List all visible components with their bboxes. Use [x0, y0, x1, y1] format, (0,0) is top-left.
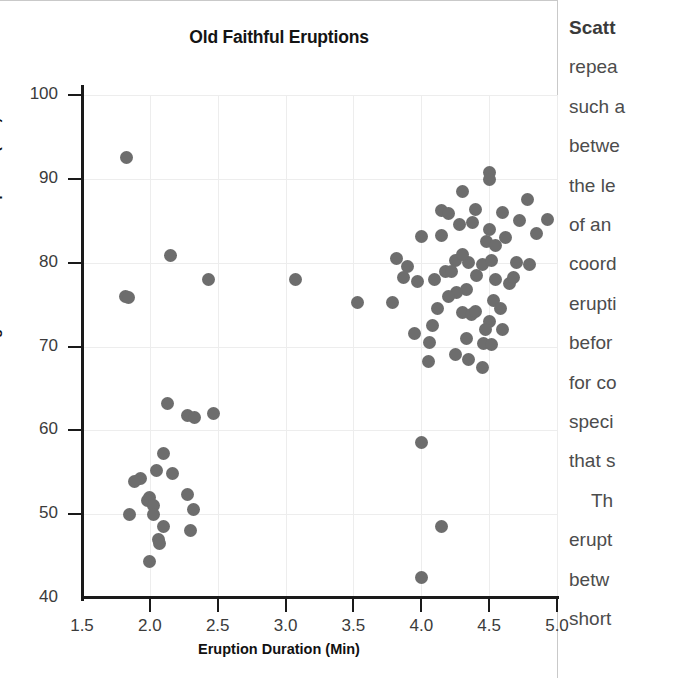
body-text-line: Scatt	[569, 8, 698, 47]
scatter-point	[123, 508, 136, 521]
body-text-line: repea	[569, 47, 698, 86]
scatter-point	[510, 256, 523, 269]
scatter-point	[442, 207, 455, 220]
body-text-line: betw	[569, 560, 698, 599]
page-title: Old Faithful Eruptions	[0, 27, 558, 48]
body-text-line: short	[569, 599, 698, 638]
scatter-point	[496, 323, 509, 336]
y-tick-label: 80	[14, 252, 58, 272]
body-text-column: Scattrepeasuch abetwethe leof ancoorderu…	[559, 0, 698, 678]
gridline-vertical	[353, 95, 354, 598]
scatter-point	[453, 218, 466, 231]
y-tick-label: 90	[14, 168, 58, 188]
scatter-point	[157, 447, 170, 460]
y-axis-line	[81, 85, 84, 601]
body-text-line: speci	[569, 402, 698, 441]
scatter-point	[449, 348, 462, 361]
body-text-line: of an	[569, 205, 698, 244]
scatter-point	[496, 206, 509, 219]
y-tick-label: 60	[14, 419, 58, 439]
y-tick-mark	[68, 513, 82, 515]
body-text-line: betwe	[569, 126, 698, 165]
scatter-point	[513, 214, 526, 227]
scatter-point	[469, 203, 482, 216]
scatter-point	[479, 323, 492, 336]
gridline-horizontal	[82, 430, 557, 431]
scatter-point	[456, 185, 469, 198]
y-tick-mark	[68, 178, 82, 180]
x-tick-mark	[488, 598, 490, 612]
scatter-point	[442, 290, 455, 303]
scatter-point	[143, 555, 156, 568]
scatter-point	[147, 508, 160, 521]
body-text-line: erupti	[569, 284, 698, 323]
body-text-line: that s	[569, 441, 698, 480]
y-axis-title: Waiting Time Between Eruptions (Min)	[0, 0, 2, 529]
scatter-point	[128, 475, 141, 488]
scatter-point	[122, 291, 135, 304]
scatter-point	[483, 173, 496, 186]
x-tick-mark	[285, 598, 287, 612]
page-root: Old Faithful Eruptions 405060708090100 1…	[0, 0, 698, 678]
gridline-vertical	[421, 95, 422, 598]
x-tick-label: 3.5	[328, 616, 378, 636]
x-tick-label: 4.0	[396, 616, 446, 636]
scatter-point	[469, 305, 482, 318]
scatter-point	[435, 229, 448, 242]
x-tick-mark	[217, 598, 219, 612]
body-text-line: such a	[569, 87, 698, 126]
body-text-line: the le	[569, 166, 698, 205]
scatter-point	[445, 265, 458, 278]
scatter-point	[408, 327, 421, 340]
body-text-line: for co	[569, 363, 698, 402]
scatter-point	[523, 258, 536, 271]
scatter-point	[485, 254, 498, 267]
gridline-vertical	[218, 95, 219, 598]
scatter-point	[386, 296, 399, 309]
scatter-point	[530, 227, 543, 240]
scatter-point	[153, 537, 166, 550]
x-tick-label: 1.5	[57, 616, 107, 636]
scatter-point	[157, 520, 170, 533]
body-text-line: Th	[569, 481, 698, 520]
scatter-point	[456, 248, 469, 261]
scatter-point	[415, 230, 428, 243]
scatter-point	[289, 273, 302, 286]
y-tick-mark	[68, 429, 82, 431]
y-tick-label: 40	[14, 587, 58, 607]
scatter-point	[485, 338, 498, 351]
y-tick-label: 100	[14, 84, 58, 104]
scatter-point	[494, 302, 507, 315]
scatter-point	[415, 571, 428, 584]
x-tick-mark	[420, 598, 422, 612]
x-tick-label: 2.0	[125, 616, 175, 636]
scatter-point	[188, 411, 201, 424]
scatter-point	[184, 524, 197, 537]
y-tick-mark	[68, 94, 82, 96]
scatter-point	[202, 273, 215, 286]
scatter-point	[521, 193, 534, 206]
y-tick-label: 70	[14, 336, 58, 356]
scatter-point	[466, 216, 479, 229]
y-tick-mark	[68, 346, 82, 348]
scatter-point	[181, 488, 194, 501]
scatter-point	[462, 353, 475, 366]
y-tick-mark	[68, 262, 82, 264]
scatter-point	[164, 249, 177, 262]
scatter-point	[150, 464, 163, 477]
x-tick-mark	[149, 598, 151, 612]
x-tick-label: 4.5	[464, 616, 514, 636]
scatter-point	[401, 260, 414, 273]
scatter-plot-figure: Old Faithful Eruptions 405060708090100 1…	[0, 0, 558, 678]
gridline-vertical	[150, 95, 151, 598]
scatter-point	[423, 336, 436, 349]
scatter-point	[460, 332, 473, 345]
body-text-line: befor	[569, 323, 698, 362]
plot-area: 405060708090100 1.52.02.53.03.54.04.55.0	[82, 95, 557, 598]
scatter-point	[435, 520, 448, 533]
scatter-point	[120, 151, 133, 164]
body-text-line: coord	[569, 244, 698, 283]
x-tick-label: 3.0	[261, 616, 311, 636]
scatter-point	[476, 361, 489, 374]
scatter-point	[351, 296, 364, 309]
